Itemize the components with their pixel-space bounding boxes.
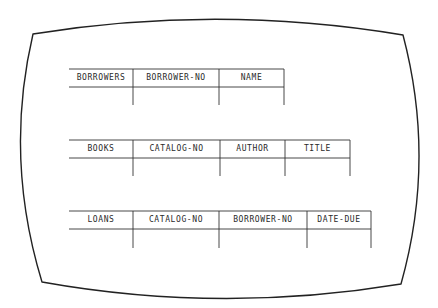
column-header: CATALOG-NO <box>133 140 220 158</box>
column-header: TITLE <box>285 140 350 158</box>
column-header: DATE-DUE <box>307 211 371 229</box>
table-name-loans: LOANS <box>69 211 133 229</box>
column-header: CATALOG-NO <box>133 211 219 229</box>
column-header: AUTHOR <box>220 140 285 158</box>
table-name-books: BOOKS <box>69 140 133 158</box>
column-header: BORROWER-NO <box>219 211 307 229</box>
table-name-borrowers: BORROWERS <box>69 69 133 87</box>
column-header: NAME <box>219 69 284 87</box>
column-header: BORROWER-NO <box>133 69 219 87</box>
